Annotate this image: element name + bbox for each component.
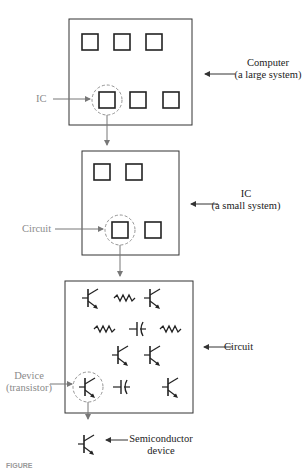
computer-label: Computer (a large system) <box>232 57 304 81</box>
ic-pointer-label: IC <box>36 93 47 105</box>
circuit-box <box>65 281 193 413</box>
semiconductor-device-label: Semiconductor device <box>126 433 196 457</box>
circuit-label: Circuit <box>224 341 253 353</box>
figure-caption: FIGURE <box>6 462 32 469</box>
ic-box <box>82 151 179 255</box>
device-pointer-label: Device (transistor) <box>5 370 53 394</box>
computer-box <box>69 19 192 125</box>
circuit-pointer-label: Circuit <box>22 223 51 235</box>
ic-label: IC (a small system) <box>210 188 282 212</box>
transistor-symbol <box>78 435 94 455</box>
